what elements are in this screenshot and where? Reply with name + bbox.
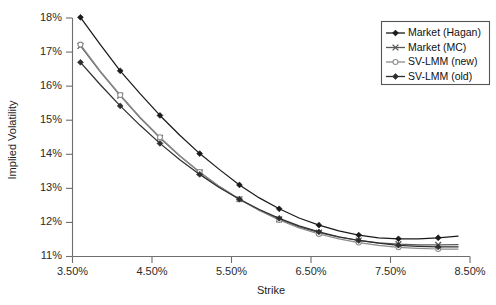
legend-item-label: Market (Hagan) bbox=[408, 26, 481, 38]
y-tick-label: 13% bbox=[40, 181, 62, 193]
x-tick-label: 4.50% bbox=[136, 265, 167, 277]
x-tick-label: 5.50% bbox=[216, 265, 247, 277]
x-tick-label: 6.50% bbox=[295, 265, 326, 277]
chart-legend: Market (Hagan)Market (MC)SV-LMM (new)SV-… bbox=[382, 22, 490, 85]
x-tick-label: 7.50% bbox=[375, 265, 406, 277]
data-point bbox=[276, 206, 282, 212]
y-tick-label: 15% bbox=[40, 113, 62, 125]
legend-marker bbox=[393, 60, 398, 65]
y-tick-label: 17% bbox=[40, 45, 62, 57]
data-point bbox=[316, 222, 322, 228]
x-axis-title: Strike bbox=[257, 284, 285, 296]
data-point bbox=[435, 235, 441, 241]
implied-volatility-chart: 11%12%13%14%15%16%17%18% 3.50%4.50%5.50%… bbox=[0, 0, 496, 305]
legend-item-label: SV-LMM (old) bbox=[408, 70, 472, 82]
data-point bbox=[118, 93, 123, 98]
y-axis-title: Implied Volatility bbox=[6, 100, 18, 179]
data-point bbox=[157, 135, 162, 140]
x-axis-ticks: 3.50%4.50%5.50%6.50%7.50%8.50% bbox=[57, 257, 486, 278]
x-tick-label: 8.50% bbox=[454, 265, 485, 277]
data-point bbox=[356, 232, 362, 238]
legend-item-label: SV-LMM (new) bbox=[408, 55, 477, 67]
x-tick-label: 3.50% bbox=[57, 265, 88, 277]
legend-item-label: Market (MC) bbox=[408, 41, 466, 53]
y-tick-label: 16% bbox=[40, 79, 62, 91]
y-tick-label: 14% bbox=[40, 147, 62, 159]
data-point bbox=[78, 42, 83, 47]
y-tick-label: 11% bbox=[41, 249, 62, 261]
y-tick-label: 12% bbox=[40, 215, 62, 227]
y-axis-ticks: 11%12%13%14%15%16%17%18% bbox=[40, 11, 73, 262]
data-point bbox=[396, 236, 402, 242]
chart-figure: 11%12%13%14%15%16%17%18% 3.50%4.50%5.50%… bbox=[0, 0, 496, 305]
y-tick-label: 18% bbox=[40, 11, 62, 23]
